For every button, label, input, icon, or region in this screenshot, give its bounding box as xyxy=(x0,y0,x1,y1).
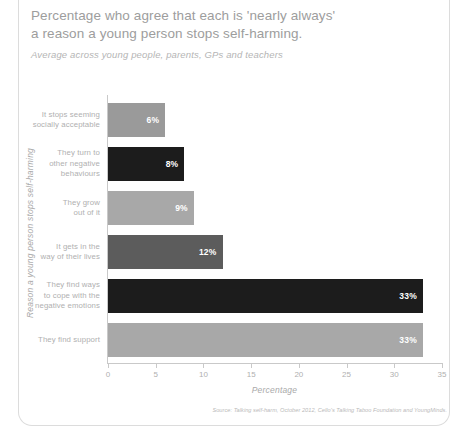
category-label: It gets in theway of their lives xyxy=(20,242,100,263)
category-label: They growout of it xyxy=(20,198,100,219)
x-axis-tick xyxy=(108,363,109,368)
category-label: They find waysto cope with thenegative e… xyxy=(20,280,100,312)
x-axis-tick xyxy=(203,363,204,368)
x-axis-tick xyxy=(347,363,348,368)
bar: 33% xyxy=(108,279,423,313)
x-axis-tick xyxy=(251,363,252,368)
x-axis-tick xyxy=(394,363,395,368)
x-axis-tick-label: 15 xyxy=(236,370,266,379)
bar: 33% xyxy=(108,323,423,357)
bar-value-label: 8% xyxy=(166,159,179,169)
bar-chart-plot: Reason a young person stops self-harming… xyxy=(0,0,469,436)
x-axis-label: Percentage xyxy=(107,385,442,395)
category-label: They find support xyxy=(20,335,100,346)
category-label: It stops seemingsocially acceptable xyxy=(20,110,100,131)
x-axis-tick-label: 5 xyxy=(141,370,171,379)
bar: 8% xyxy=(108,147,184,181)
bar-value-label: 33% xyxy=(399,291,417,301)
x-axis-tick xyxy=(442,363,443,368)
bar-value-label: 33% xyxy=(399,335,417,345)
x-axis-tick-label: 10 xyxy=(188,370,218,379)
bar: 9% xyxy=(108,191,194,225)
x-axis-tick-label: 0 xyxy=(93,370,123,379)
bar: 12% xyxy=(108,235,223,269)
x-axis-tick-label: 25 xyxy=(332,370,362,379)
x-axis-tick xyxy=(156,363,157,368)
x-axis-tick-label: 20 xyxy=(284,370,314,379)
bar: 6% xyxy=(108,103,165,137)
bar-value-label: 12% xyxy=(199,247,217,257)
x-axis-tick-label: 35 xyxy=(427,370,457,379)
bar-value-label: 9% xyxy=(175,203,188,213)
x-axis-line xyxy=(107,363,442,364)
source-note: Source: Talking self-harm, October 2012,… xyxy=(212,407,447,413)
x-axis-tick xyxy=(299,363,300,368)
x-axis-tick-label: 30 xyxy=(379,370,409,379)
category-label: They turn toother negativebehaviours xyxy=(20,148,100,180)
bar-value-label: 6% xyxy=(147,115,160,125)
